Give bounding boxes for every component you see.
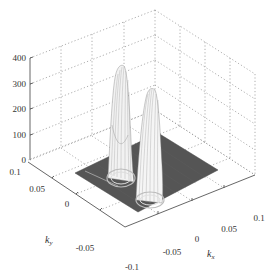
surface-peak-left	[107, 65, 135, 187]
ky-tick-neg0.05: -0.05	[76, 243, 95, 253]
ky-tick-0: 0	[65, 199, 70, 209]
kx-tick-labels: -0.05 0 0.05 0.1	[163, 213, 265, 257]
kx-tick-0: 0	[195, 234, 200, 244]
surface-peak-right	[136, 89, 164, 208]
kx-tick-0.05: 0.05	[221, 224, 237, 234]
ky-tick-0.05: 0.05	[29, 184, 45, 194]
z-tick-0: 0	[22, 155, 27, 165]
z-tick-100: 100	[13, 130, 27, 140]
kx-axis-label: kx	[207, 248, 215, 261]
z-tick-200: 200	[13, 104, 27, 114]
z-tick-labels: 400 300 200 100 0	[13, 53, 27, 165]
z-tick-300: 300	[13, 79, 27, 89]
kx-tick-neg0.05: -0.05	[163, 247, 182, 257]
z-tick-400: 400	[13, 53, 27, 63]
kx-tick-0.1: 0.1	[253, 213, 264, 223]
ky-tick-neg0.1: -0.1	[125, 262, 139, 272]
ky-axis-label: ky	[45, 234, 53, 247]
ky-tick-0.1: 0.1	[9, 167, 20, 177]
surface-plot: 400 300 200 100 0 0.1 0.05 0 -0.05 -0.1 …	[0, 0, 274, 279]
